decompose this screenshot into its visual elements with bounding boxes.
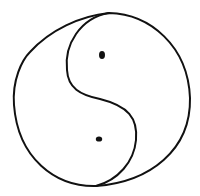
upper-dot [99, 51, 105, 59]
yin-yang-icon [0, 0, 200, 196]
lower-dot [96, 136, 102, 141]
s-curve-divider [67, 13, 137, 186]
yin-yang-drawing [0, 0, 200, 196]
